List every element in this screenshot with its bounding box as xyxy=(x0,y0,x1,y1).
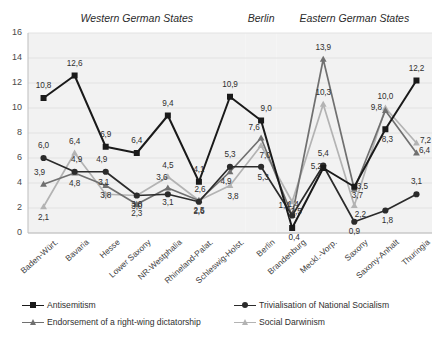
chart-data-label: 5,2 xyxy=(311,162,322,171)
chart-data-point xyxy=(196,199,202,205)
chart-data-point xyxy=(72,169,78,175)
chart-data-label: 3,6 xyxy=(156,173,167,182)
chart-data-label: 4,9 xyxy=(220,177,231,186)
chart-data-label: 1,4 xyxy=(279,201,290,210)
chart-y-tick-label: 12 xyxy=(2,77,22,87)
legend-marker-icon xyxy=(234,318,256,327)
chart-data-label: 3,9 xyxy=(34,168,45,177)
chart-data-label: 4,9 xyxy=(96,155,107,164)
chart-y-tick-label: 4 xyxy=(2,177,22,187)
chart-data-point xyxy=(134,150,140,156)
legend-marker-icon xyxy=(22,318,44,327)
chart-legend: AntisemitismTrivialisation of National S… xyxy=(22,300,432,340)
chart-data-label: 2,6 xyxy=(193,207,204,216)
chart-data-label: 9,8 xyxy=(371,103,382,112)
chart-data-point xyxy=(134,192,140,198)
chart-data-point xyxy=(165,113,171,119)
chart-data-label: 1,8 xyxy=(382,216,393,225)
chart-data-label: 10,8 xyxy=(36,81,52,90)
chart-data-point xyxy=(227,94,233,100)
chart-data-point xyxy=(413,78,419,84)
chart-data-label: 7,6 xyxy=(249,123,260,132)
chart-data-label: 6,4 xyxy=(131,136,142,145)
chart-y-tick-label: 0 xyxy=(2,227,22,237)
chart-data-point xyxy=(72,73,78,79)
chart-group-title: Western German States xyxy=(28,12,246,24)
chart-data-label: 9,4 xyxy=(162,99,173,108)
chart-plot-area xyxy=(0,0,435,347)
chart-data-label: 3,1 xyxy=(162,198,173,207)
chart-data-point xyxy=(382,207,388,213)
chart-data-point xyxy=(382,126,388,132)
chart-data-label: 3,1 xyxy=(98,178,109,187)
chart-data-label: 6,0 xyxy=(38,141,49,150)
chart-y-tick-label: 6 xyxy=(2,152,22,162)
legend-item-label: Antisemitism xyxy=(47,300,96,310)
chart-data-label: 6,9 xyxy=(100,130,111,139)
chart-data-point xyxy=(413,191,419,197)
chart-group-title: Eastern German States xyxy=(277,12,432,24)
legend-marker-icon xyxy=(22,301,44,310)
chart-data-label: 2,3 xyxy=(131,209,142,218)
chart-data-label: 6,4 xyxy=(419,146,430,155)
chart-data-label: 4,8 xyxy=(69,179,80,188)
chart-data-label: 12,6 xyxy=(67,59,83,68)
legend-item-label: Trivialisation of National Socialism xyxy=(259,300,389,310)
chart-data-label: 6,4 xyxy=(69,137,80,146)
chart-data-point xyxy=(40,155,46,161)
chart-y-tick-label: 8 xyxy=(2,127,22,137)
chart-data-label: 3,8 xyxy=(100,191,111,200)
chart-data-point xyxy=(289,225,295,231)
legend-item[interactable]: Social Darwinism xyxy=(234,317,325,327)
legend-item-label: Social Darwinism xyxy=(259,317,325,327)
chart-group-title: Berlin xyxy=(246,12,277,24)
chart-y-tick-label: 16 xyxy=(2,27,22,37)
chart-y-tick-label: 10 xyxy=(2,102,22,112)
chart-data-label: 4,1 xyxy=(193,165,204,174)
chart-data-label: 13,9 xyxy=(315,43,331,52)
legend-item-label: Endorsement of a right-wing dictatorship xyxy=(47,317,201,327)
chart-data-point xyxy=(351,219,357,225)
chart-data-label: 4,5 xyxy=(162,161,173,170)
chart-data-label: 7,0 xyxy=(260,151,271,160)
chart-data-label: 3,0 xyxy=(131,202,142,211)
chart-data-point xyxy=(258,164,264,170)
chart-data-label: 10,3 xyxy=(315,88,331,97)
chart-data-label: 3,7 xyxy=(352,191,363,200)
chart-y-tick-label: 2 xyxy=(2,202,22,212)
chart-data-label: 4,9 xyxy=(71,155,82,164)
legend-item[interactable]: Trivialisation of National Socialism xyxy=(234,300,389,310)
chart-container: Western German StatesBerlinEastern Germa… xyxy=(0,0,435,347)
chart-data-label: 2,2 xyxy=(355,210,366,219)
chart-data-label: 10,0 xyxy=(378,92,394,101)
chart-data-label: 3,5 xyxy=(357,182,368,191)
chart-data-label: 9,0 xyxy=(261,104,272,113)
chart-data-label: 5,4 xyxy=(318,149,329,158)
chart-data-label: 12,2 xyxy=(409,64,425,73)
chart-data-point xyxy=(41,95,47,101)
chart-data-label: 3,8 xyxy=(227,192,238,201)
legend-marker-icon xyxy=(234,301,256,310)
chart-data-label: 0,9 xyxy=(349,227,360,236)
chart-data-point xyxy=(103,169,109,175)
legend-item[interactable]: Antisemitism xyxy=(22,300,96,310)
chart-data-label: 8,3 xyxy=(382,135,393,144)
chart-data-label: 5,3 xyxy=(224,150,235,159)
chart-y-tick-label: 14 xyxy=(2,52,22,62)
chart-data-label: 5,3 xyxy=(258,173,269,182)
chart-data-label: 7,2 xyxy=(420,136,431,145)
chart-data-label: 2,5 xyxy=(291,207,302,216)
chart-data-point xyxy=(165,191,171,197)
chart-data-label: 10,9 xyxy=(222,80,238,89)
chart-data-label: 3,1 xyxy=(411,177,422,186)
chart-data-point xyxy=(227,164,233,170)
legend-item[interactable]: Endorsement of a right-wing dictatorship xyxy=(22,317,201,327)
chart-data-point xyxy=(103,144,109,150)
chart-data-label: 2,1 xyxy=(38,213,49,222)
chart-data-label: 2,6 xyxy=(194,185,205,194)
